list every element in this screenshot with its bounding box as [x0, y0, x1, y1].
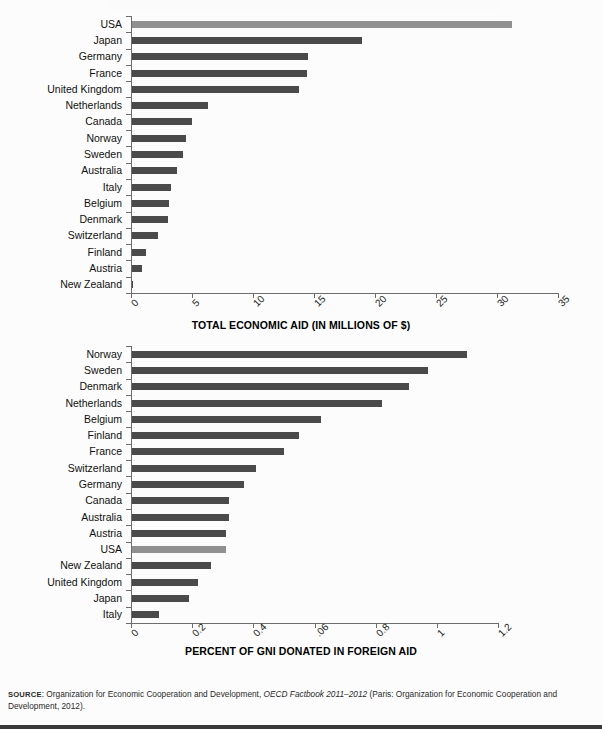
- category-label-australia: Australia: [81, 512, 122, 523]
- bar-new-zealand: [131, 562, 211, 569]
- category-label-germany: Germany: [79, 51, 122, 62]
- bar-sweden: [131, 367, 428, 374]
- x-axis-title-chart2: PERCENT OF GNI DONATED IN FOREIGN AID: [0, 645, 602, 657]
- category-label-switzerland: Switzerland: [68, 230, 122, 241]
- bar-france: [131, 70, 307, 77]
- bar-sweden: [131, 151, 183, 158]
- bar-france: [131, 448, 284, 455]
- bar-japan: [131, 595, 189, 602]
- category-label-switzerland: Switzerland: [68, 463, 122, 474]
- bar-australia: [131, 514, 229, 521]
- category-label-japan: Japan: [93, 593, 122, 604]
- category-label-finland: Finland: [88, 247, 122, 258]
- x-axis-tick-label: 0: [129, 627, 141, 639]
- chart-percent-gni-foreign-aid: NorwaySwedenDenmarkNetherlandsBelgiumFin…: [0, 340, 602, 660]
- category-label-canada: Canada: [85, 116, 122, 127]
- category-label-usa: USA: [100, 544, 122, 555]
- category-label-sweden: Sweden: [84, 365, 122, 376]
- bar-germany: [131, 53, 308, 60]
- bar-denmark: [131, 383, 409, 390]
- x-axis-tick-label: 1: [435, 627, 447, 639]
- bar-norway: [131, 135, 186, 142]
- x-axis-tick-label: 0: [129, 297, 141, 309]
- category-label-italy: Italy: [103, 182, 122, 193]
- category-label-denmark: Denmark: [79, 214, 122, 225]
- source-text-before: : Organization for Economic Cooperation …: [42, 689, 264, 699]
- category-label-austria: Austria: [89, 528, 122, 539]
- bar-italy: [131, 184, 171, 191]
- x-axis-title-chart1: TOTAL ECONOMIC AID (IN MILLIONS OF $): [0, 319, 602, 331]
- category-label-new-zealand: New Zealand: [60, 560, 122, 571]
- bar-germany: [131, 481, 244, 488]
- category-label-norway: Norway: [86, 133, 122, 144]
- category-label-italy: Italy: [103, 609, 122, 620]
- bar-australia: [131, 167, 177, 174]
- category-label-austria: Austria: [89, 263, 122, 274]
- chart-total-economic-aid: USAJapanGermanyFranceUnited KingdomNethe…: [0, 10, 602, 330]
- category-label-netherlands: Netherlands: [65, 100, 122, 111]
- category-label-japan: Japan: [93, 35, 122, 46]
- bar-switzerland: [131, 465, 256, 472]
- category-label-canada: Canada: [85, 495, 122, 506]
- plot-area-chart2: NorwaySwedenDenmarkNetherlandsBelgiumFin…: [131, 346, 498, 623]
- category-label-netherlands: Netherlands: [65, 398, 122, 409]
- bar-netherlands: [131, 102, 208, 109]
- y-axis-line: [131, 16, 132, 293]
- bar-belgium: [131, 200, 169, 207]
- category-label-france: France: [89, 446, 122, 457]
- source-title-italic: OECD Factbook 2011–2012: [264, 689, 368, 699]
- x-axis-line: [131, 293, 559, 294]
- category-label-germany: Germany: [79, 479, 122, 490]
- bar-canada: [131, 118, 192, 125]
- bar-belgium: [131, 416, 321, 423]
- bar-canada: [131, 497, 229, 504]
- bar-austria: [131, 265, 142, 272]
- y-axis-line: [131, 346, 132, 623]
- x-axis-tick-label: 5: [190, 297, 202, 309]
- figure-page: USAJapanGermanyFranceUnited KingdomNethe…: [0, 0, 602, 729]
- page-bottom-rule: [0, 725, 602, 729]
- bar-finland: [131, 432, 299, 439]
- category-label-united-kingdom: United Kingdom: [47, 84, 122, 95]
- category-label-united-kingdom: United Kingdom: [47, 577, 122, 588]
- plot-area-chart1: USAJapanGermanyFranceUnited KingdomNethe…: [131, 16, 558, 293]
- bar-austria: [131, 530, 226, 537]
- bar-netherlands: [131, 400, 382, 407]
- category-label-sweden: Sweden: [84, 149, 122, 160]
- category-label-norway: Norway: [86, 349, 122, 360]
- bar-norway: [131, 351, 467, 358]
- category-label-belgium: Belgium: [84, 198, 122, 209]
- source-kicker: SOURCE: [8, 690, 42, 699]
- bar-italy: [131, 611, 159, 618]
- bar-finland: [131, 249, 146, 256]
- bar-japan: [131, 37, 362, 44]
- category-label-france: France: [89, 68, 122, 79]
- bar-denmark: [131, 216, 168, 223]
- bar-usa: [131, 546, 226, 553]
- bar-united-kingdom: [131, 86, 299, 93]
- category-label-finland: Finland: [88, 430, 122, 441]
- category-label-new-zealand: New Zealand: [60, 279, 122, 290]
- bar-united-kingdom: [131, 579, 198, 586]
- category-label-usa: USA: [100, 19, 122, 30]
- bar-switzerland: [131, 232, 158, 239]
- category-label-belgium: Belgium: [84, 414, 122, 425]
- bar-usa: [131, 21, 512, 28]
- source-note: SOURCE: Organization for Economic Cooper…: [8, 688, 594, 712]
- category-label-australia: Australia: [81, 165, 122, 176]
- category-label-denmark: Denmark: [79, 381, 122, 392]
